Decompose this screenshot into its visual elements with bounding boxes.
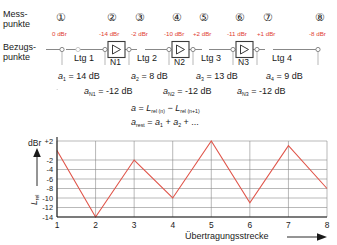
amp-gain-n1: aN1 = -12 dB xyxy=(84,86,132,99)
subscript-2: 2 xyxy=(136,76,139,82)
line-attenuation-2: a2 = 8 dB xyxy=(131,71,168,84)
measure-point-2-number: ② xyxy=(107,13,117,23)
chart-y-tick--14: -14 xyxy=(42,213,53,222)
value-an3: = -12 dB xyxy=(251,86,285,96)
value-a3: = 13 dB xyxy=(206,71,237,81)
formula2-equals: = xyxy=(147,117,152,127)
subscript-n3: N3 xyxy=(242,91,249,97)
subscript-4: 4 xyxy=(271,76,274,82)
formula1-lhs: a xyxy=(131,103,136,113)
chart-y-axis-title-symbol: L xyxy=(29,200,39,205)
circled-7-icon: ⑦ xyxy=(263,11,273,23)
dbr-value-7: +1 dBr xyxy=(257,30,275,37)
circled-1-icon: ① xyxy=(56,11,66,23)
chart-x-tick-labels: 12345678 xyxy=(55,220,330,230)
dbr-value-2: -14 dBr xyxy=(99,30,119,37)
formula1-equals: = xyxy=(139,103,144,113)
amp-gain-n3: aN3 = -12 dB xyxy=(237,86,285,99)
formula2-plus1: + xyxy=(165,117,170,127)
dbr-value-8: -8 dBr xyxy=(309,30,326,37)
circled-2-icon: ② xyxy=(107,11,117,23)
measure-point-6-number: ⑥ xyxy=(235,13,245,23)
chart-x-tick-7: 7 xyxy=(286,220,291,230)
chart-x-tick-1: 1 xyxy=(55,220,60,230)
subscript-n1: N1 xyxy=(89,91,96,97)
measure-point-1-number: ① xyxy=(56,13,66,23)
chart-y-axis-title-sub: rel xyxy=(34,195,40,201)
line-attenuation-4: a4 = 9 dB xyxy=(266,71,303,84)
amp-gain-n2: aN2 = -12 dB xyxy=(163,86,211,99)
measure-point-4-number: ④ xyxy=(172,13,182,23)
amplifier-label-n1: N1 xyxy=(110,58,121,68)
chart-y-tick--12: -12 xyxy=(42,203,53,212)
measure-point-7-number: ⑦ xyxy=(263,13,273,23)
amplifier-label-n2: N2 xyxy=(174,58,185,68)
formula2-plus2: + ... xyxy=(184,117,199,127)
dbr-value-3: -2 dBr xyxy=(131,30,148,37)
messpunkte-label-line2: punkte xyxy=(3,19,30,29)
subscript-3: 3 xyxy=(201,76,204,82)
amplifier-label-n3: N3 xyxy=(238,58,249,68)
circled-8-icon: ⑧ xyxy=(315,11,325,23)
chart-x-tick-8: 8 xyxy=(325,220,330,230)
chart-y-tick--4: -4 xyxy=(46,165,53,174)
dbr-value-5: +2 dBr xyxy=(193,30,211,37)
value-an1: = -12 dB xyxy=(98,86,132,96)
chart-x-tick-3: 3 xyxy=(132,220,137,230)
chart-y-tick--2: -2 xyxy=(46,156,53,165)
line-attenuation-3: a3 = 13 dB xyxy=(196,71,238,84)
chart-x-tick-5: 5 xyxy=(209,220,214,230)
chart-x-axis-title: Übertragungsstrecke xyxy=(185,231,269,241)
chart-x-tick-4: 4 xyxy=(170,220,175,230)
chart-x-tick-6: 6 xyxy=(248,220,253,230)
value-a4: = 9 dB xyxy=(276,71,302,81)
circled-6-icon: ⑥ xyxy=(235,11,245,23)
formula-attenuation-definition: a = Lrel (n) − Lrel (n+1) xyxy=(131,103,200,116)
diagram-root: Mess- punkte Bezugs- punkte ① ② ③ ④ ⑤ ⑥ … xyxy=(0,0,337,245)
chart-y-axis-title: Lrel xyxy=(30,195,43,206)
x-axis-direction-arrow xyxy=(287,231,329,243)
value-a1: = 14 dB xyxy=(68,71,99,81)
line-section-label-2: Ltg 2 xyxy=(137,53,157,63)
circled-3-icon: ③ xyxy=(135,11,145,23)
formula1-term1-sub: rel (n) xyxy=(151,108,165,114)
circled-5-icon: ⑤ xyxy=(199,11,209,23)
messpunkte-label-line1: Mess- xyxy=(3,9,30,19)
messpunkte-label: Mess- punkte xyxy=(3,9,30,29)
chart-y-tick--10: -10 xyxy=(42,194,53,203)
line-section-label-3: Ltg 3 xyxy=(201,53,221,63)
value-an2: = -12 dB xyxy=(177,86,211,96)
dbr-value-1: 0 dBr xyxy=(52,30,67,37)
measure-point-8-number: ⑧ xyxy=(315,13,325,23)
formula1-term2-sub: rel (n+1) xyxy=(180,108,199,114)
subscript-1: 1 xyxy=(63,76,66,82)
chart-gridlines xyxy=(57,141,327,217)
circled-4-icon: ④ xyxy=(172,11,182,23)
chart-y-tick--8: -8 xyxy=(46,184,53,193)
chart-y-tick--6: -6 xyxy=(46,175,53,184)
y-axis-direction-arrow xyxy=(30,146,44,188)
line-section-label-4: Ltg 4 xyxy=(272,53,292,63)
measure-point-5-number: ⑤ xyxy=(199,13,209,23)
dbr-value-4: -10 dBr xyxy=(164,30,184,37)
formula1-minus: − xyxy=(167,103,172,113)
chart-y-tick-+2: +2 xyxy=(45,137,53,146)
value-a2: = 8 dB xyxy=(141,71,167,81)
level-diagram-chart: +2-2-4-6-8-10-12-14 12345678 xyxy=(0,128,337,243)
measure-point-3-number: ③ xyxy=(135,13,145,23)
line-section-label-1: Ltg 1 xyxy=(74,53,94,63)
line-attenuation-1: a1 = 14 dB xyxy=(58,71,100,84)
subscript-n2: N2 xyxy=(168,91,175,97)
dbr-value-6: -11 dBr xyxy=(227,30,247,37)
chart-x-tick-2: 2 xyxy=(93,220,98,230)
